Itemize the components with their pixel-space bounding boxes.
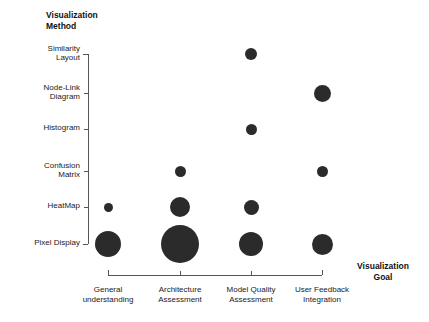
- bubble-marker: [312, 234, 333, 255]
- bubble-chart-figure: Visualization Method Visualization Goal …: [0, 0, 429, 322]
- bubble-marker: [161, 225, 199, 263]
- bubble-marker: [314, 85, 331, 102]
- bubble-marker: [244, 200, 259, 215]
- bubble-marker: [245, 48, 257, 60]
- bubble-data-layer: [0, 0, 429, 322]
- bubble-marker: [95, 231, 121, 257]
- bubble-marker: [170, 197, 190, 217]
- bubble-marker: [239, 232, 263, 256]
- bubble-marker: [246, 124, 257, 135]
- bubble-marker: [175, 166, 186, 177]
- bubble-marker: [317, 166, 328, 177]
- bubble-marker: [104, 203, 113, 212]
